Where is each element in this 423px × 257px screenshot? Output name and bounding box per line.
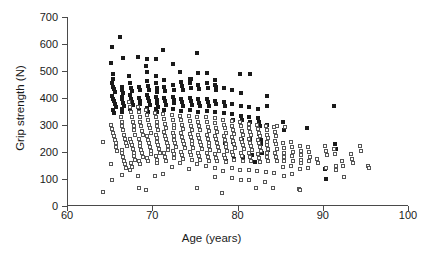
data-point-open-square [155,120,159,124]
data-point-open-square [171,118,175,122]
data-point-filled-square [155,90,159,94]
data-point-open-square [153,174,157,178]
data-point-open-square [154,115,158,119]
data-point-open-square [214,137,218,141]
data-point-open-square [282,159,286,163]
data-point-filled-square [281,120,285,124]
data-point-filled-square [265,94,269,98]
data-point-open-square [215,159,219,163]
data-point-open-square [204,164,208,168]
data-point-open-square [316,161,320,165]
data-point-filled-square [189,86,193,90]
data-point-open-square [195,115,199,119]
data-point-open-square [220,191,224,195]
data-point-open-square [273,151,277,155]
data-point-open-square [174,145,178,149]
data-point-filled-square [109,61,113,65]
data-point-filled-square [171,62,175,66]
data-point-open-square [323,144,327,148]
data-point-open-square [281,165,285,169]
data-point-open-square [161,172,165,176]
data-point-open-square [367,166,371,170]
data-point-open-square [195,162,199,166]
data-point-open-square [189,124,193,128]
data-point-open-square [139,124,143,128]
data-point-open-square [324,149,328,153]
data-point-open-square [341,164,345,168]
data-point-open-square [239,124,243,128]
data-point-open-square [207,129,211,133]
data-point-open-square [221,118,225,122]
data-point-open-square [129,110,133,114]
data-point-filled-square [110,45,114,49]
y-axis-title-text: Grip strength (N) [12,8,28,208]
data-point-open-square [224,160,228,164]
data-point-filled-square [213,110,217,114]
data-point-filled-square [239,91,243,95]
data-point-filled-square [112,111,116,115]
data-point-filled-square [111,72,115,76]
data-point-filled-square [164,103,168,107]
data-point-open-square [358,144,362,148]
data-point-open-square [221,169,225,173]
data-point-open-square [254,186,258,190]
data-point-open-square [359,149,363,153]
data-point-open-square [266,159,270,163]
data-point-filled-square [238,72,242,76]
data-point-filled-square [230,88,234,92]
data-point-open-square [140,129,144,133]
data-point-open-square [110,178,114,182]
data-point-filled-square [161,48,165,52]
data-point-open-square [120,120,124,124]
data-point-open-square [109,162,113,166]
data-point-open-square [187,114,191,118]
data-point-open-square [153,111,157,115]
data-point-filled-square [147,88,151,92]
data-point-filled-square [179,109,183,113]
data-point-open-square [149,131,153,135]
data-point-open-square [138,115,142,119]
data-point-open-square [133,133,137,137]
data-point-filled-square [138,88,142,92]
data-point-filled-square [196,83,200,87]
data-point-filled-square [172,101,176,105]
data-point-open-square [137,186,141,190]
data-point-filled-square [127,74,131,78]
data-point-open-square [307,150,311,154]
data-point-filled-square [145,57,149,61]
data-point-filled-square [154,81,158,85]
data-point-open-square [281,141,285,145]
data-point-filled-square [305,126,309,130]
data-point-filled-square [196,71,200,75]
data-point-open-square [128,105,132,109]
data-point-filled-square [205,109,209,113]
data-point-open-square [161,112,165,116]
data-point-open-square [162,117,166,121]
data-point-filled-square [188,81,192,85]
data-point-open-square [290,154,294,158]
data-point-open-square [223,126,227,130]
data-point-open-square [290,172,294,176]
data-point-filled-square [333,142,337,146]
x-axis-title: Age (years) [0,232,423,244]
x-tick-label-70: 70 [132,210,172,221]
data-point-open-square [183,146,187,150]
data-point-filled-square [206,86,210,90]
data-point-open-square [195,186,199,190]
data-point-filled-square [214,102,218,106]
data-point-open-square [130,115,134,119]
data-point-open-square [306,166,310,170]
data-point-open-square [101,190,105,194]
data-point-open-square [333,152,337,156]
data-point-open-square [332,147,336,151]
data-point-open-square [196,120,200,124]
data-point-filled-square [121,56,125,60]
data-point-open-square [164,159,168,163]
data-point-open-square [223,156,227,160]
data-point-open-square [325,153,329,157]
data-point-open-square [247,168,251,172]
data-point-open-square [282,174,286,178]
data-point-open-square [225,149,229,153]
data-point-open-square [190,158,194,162]
data-point-open-square [178,114,182,118]
